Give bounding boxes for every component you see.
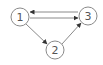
node-2: 2 bbox=[46, 41, 64, 59]
node-label: 2 bbox=[52, 44, 59, 57]
edge-1-to-2 bbox=[26, 24, 47, 44]
graph-canvas: 1 2 3 bbox=[0, 0, 103, 65]
node-label: 3 bbox=[85, 10, 92, 23]
node-label: 1 bbox=[17, 11, 24, 24]
edge-2-to-3 bbox=[62, 23, 81, 44]
node-1: 1 bbox=[11, 8, 29, 26]
node-3: 3 bbox=[79, 7, 97, 25]
